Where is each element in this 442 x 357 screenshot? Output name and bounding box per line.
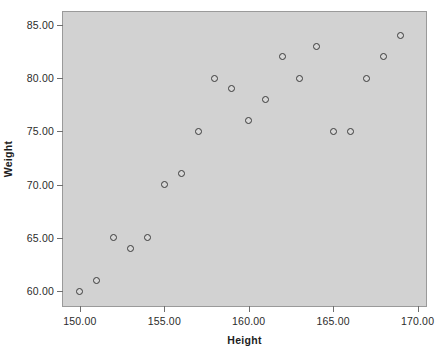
data-point — [245, 117, 252, 124]
data-point — [178, 170, 185, 177]
data-point — [397, 32, 404, 39]
data-point — [330, 128, 337, 135]
data-point — [93, 277, 100, 284]
x-axis-tick-mark — [418, 306, 419, 312]
x-axis-tick-mark — [80, 306, 81, 312]
plot-area: 60.0065.0070.0075.0080.0085.00150.00155.… — [62, 11, 427, 307]
y-axis-tick-label: 75.00 — [27, 125, 54, 137]
data-point — [363, 75, 370, 82]
data-point — [279, 53, 286, 60]
y-axis-title: Weight — [0, 11, 16, 307]
data-point — [211, 75, 218, 82]
y-axis-tick-label: 60.00 — [27, 285, 54, 297]
data-point — [228, 85, 235, 92]
scatter-plot-figure: Weight 60.0065.0070.0075.0080.0085.00150… — [0, 0, 442, 357]
x-axis-title: Height — [62, 334, 427, 346]
y-axis-title-label: Weight — [2, 141, 14, 178]
data-point — [380, 53, 387, 60]
data-point — [76, 288, 83, 295]
x-axis-tick-label: 165.00 — [316, 315, 349, 327]
data-point — [161, 181, 168, 188]
data-point — [347, 128, 354, 135]
data-point — [296, 75, 303, 82]
data-point — [127, 245, 134, 252]
data-points-layer — [63, 12, 426, 306]
x-axis-tick-label: 150.00 — [63, 315, 96, 327]
x-axis-tick-label: 170.00 — [401, 315, 434, 327]
x-axis-tick-mark — [164, 306, 165, 312]
y-axis-tick-label: 70.00 — [27, 179, 54, 191]
data-point — [313, 43, 320, 50]
y-axis-tick-label: 65.00 — [27, 232, 54, 244]
x-axis-tick-label: 160.00 — [232, 315, 265, 327]
data-point — [262, 96, 269, 103]
y-axis-tick-label: 80.00 — [27, 72, 54, 84]
data-point — [110, 234, 117, 241]
x-axis-tick-label: 155.00 — [148, 315, 181, 327]
x-axis-tick-mark — [333, 306, 334, 312]
y-axis-tick-label: 85.00 — [27, 19, 54, 31]
data-point — [144, 234, 151, 241]
data-point — [195, 128, 202, 135]
x-axis-tick-mark — [249, 306, 250, 312]
